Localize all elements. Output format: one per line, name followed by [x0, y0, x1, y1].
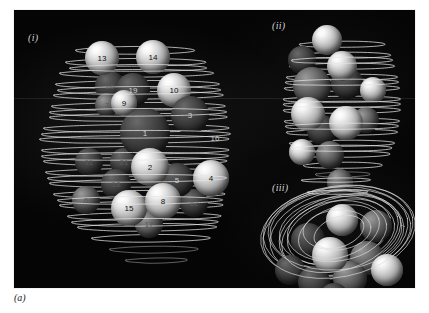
sphere-side-12: [316, 141, 344, 169]
sphere-label-20: 20: [106, 82, 115, 91]
sphere-label-19: 19: [129, 86, 138, 95]
sphere-label-12: 12: [190, 199, 199, 208]
sphere-label-6: 6: [84, 196, 88, 205]
sphere-label-8: 8: [161, 197, 165, 206]
sphere-label-5: 5: [175, 176, 179, 185]
sphere-side-7: [291, 97, 325, 131]
figure-caption: (a): [14, 292, 26, 303]
sphere-label-9: 9: [122, 99, 126, 108]
sphere-label-7: 7: [105, 101, 109, 110]
sphere-label-13: 13: [98, 54, 107, 63]
sphere-label-21: 21: [120, 158, 129, 167]
figure-root: 13 14 19 10 20 7 9 3 1 16 2 11 21 5 4 18…: [0, 0, 429, 313]
sphere-label-14: 14: [149, 53, 158, 62]
sphere-label-2: 2: [148, 163, 152, 172]
sphere-side-6: [360, 77, 386, 103]
sphere-label-15: 15: [125, 204, 134, 213]
sphere-side-3: [327, 51, 357, 81]
sphere-top-9: [371, 254, 403, 286]
sphere-label-16: 16: [211, 134, 220, 143]
panel-tag-iii: (iii): [272, 182, 289, 193]
sphere-top-2: [326, 204, 358, 236]
sphere-label-10: 10: [170, 86, 179, 95]
sphere-label-11: 11: [85, 158, 93, 167]
subpanel-top-view: (iii): [250, 170, 415, 288]
render-panel: 13 14 19 10 20 7 9 3 1 16 2 11 21 5 4 18…: [14, 10, 415, 288]
subpanel-front-view: 13 14 19 10 20 7 9 3 1 16 2 11 21 5 4 18…: [14, 10, 244, 288]
sphere-top-5: [312, 237, 348, 273]
subpanel-side-view: (ii): [250, 10, 415, 180]
sphere-side-8: [329, 106, 363, 140]
sphere-label-18: 18: [112, 180, 121, 189]
sphere-label-1: 1: [143, 129, 147, 138]
sphere-side-11: [289, 139, 315, 165]
sphere-label-3: 3: [188, 111, 192, 120]
panel-tag-i: (i): [28, 32, 38, 43]
sphere-top-3: [360, 210, 392, 242]
panel-tag-ii: (ii): [272, 20, 285, 31]
sphere-label-17: 17: [145, 220, 154, 229]
sphere-label-4: 4: [209, 174, 213, 183]
